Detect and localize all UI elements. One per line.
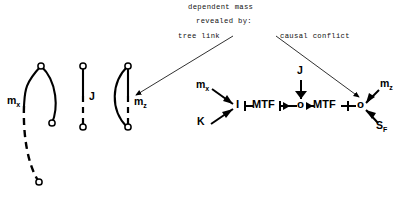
junction-zero-right: o bbox=[357, 99, 364, 111]
junction-one-left: I bbox=[236, 99, 239, 111]
annotation-tree-link: tree link bbox=[178, 33, 220, 40]
port-mass-x: mx bbox=[196, 79, 209, 92]
port-mass-x-base: m bbox=[196, 78, 205, 90]
loop-label-mass-z-base: m bbox=[134, 95, 143, 107]
figure-canvas: dependent mass revealed by: tree link ca… bbox=[0, 0, 410, 213]
tree-link-pointer bbox=[136, 36, 233, 95]
loop-label-mass-x: mx bbox=[7, 95, 20, 108]
mtf-left: MTF bbox=[252, 99, 275, 110]
port-source-flow-sub: F bbox=[383, 126, 387, 133]
port-mass-z: mz bbox=[380, 78, 393, 91]
mtf-right: MTF bbox=[313, 99, 336, 110]
heading-line-1: dependent mass bbox=[188, 4, 253, 11]
port-inertia-j-base: J bbox=[297, 64, 303, 76]
loop-label-mass-x-base: m bbox=[7, 94, 16, 106]
loop-label-mass-z: mz bbox=[134, 96, 147, 109]
loop-label-inertia-j-base: J bbox=[89, 90, 95, 102]
annotation-causal-conflict: causal conflict bbox=[280, 33, 350, 40]
mass-x-loop-graphic bbox=[24, 63, 56, 185]
inertia-j-loop-graphic bbox=[80, 63, 86, 130]
causal-conflict-pointer bbox=[276, 36, 359, 97]
port-source-flow-base: S bbox=[376, 119, 383, 131]
port-spring-k-base: K bbox=[197, 115, 205, 127]
heading-line-2: revealed by: bbox=[196, 18, 252, 25]
port-source-flow: SF bbox=[376, 120, 387, 133]
port-mass-x-sub: x bbox=[205, 85, 209, 92]
port-spring-k: K bbox=[197, 116, 205, 127]
port-mass-z-sub: z bbox=[389, 84, 393, 91]
port-mass-z-base: m bbox=[380, 77, 389, 89]
mass-z-loop-graphic bbox=[115, 63, 131, 130]
junction-zero-mid: o bbox=[297, 99, 304, 111]
port-inertia-j: J bbox=[297, 65, 303, 76]
loop-label-mass-x-sub: x bbox=[16, 101, 20, 108]
loop-label-mass-z-sub: z bbox=[143, 102, 147, 109]
loop-label-inertia-j: J bbox=[89, 91, 95, 102]
